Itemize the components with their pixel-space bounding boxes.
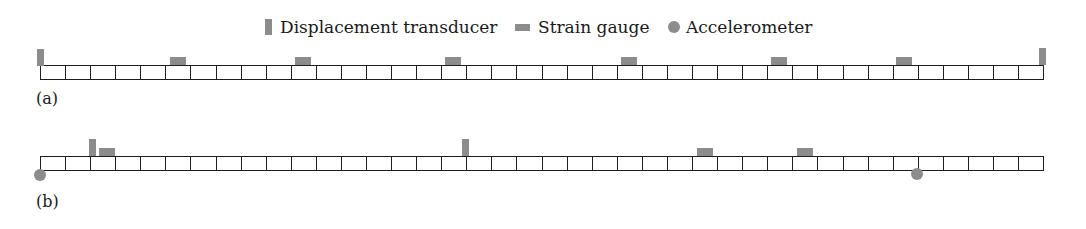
beam-cell <box>517 66 542 79</box>
beam-cell <box>793 66 818 79</box>
beam-cell <box>693 66 718 79</box>
beam-cell <box>242 157 267 170</box>
legend-item-strain-gauge: Strain gauge <box>515 14 649 40</box>
beam-cell <box>643 157 668 170</box>
beam-cell <box>994 157 1019 170</box>
beam-cell <box>367 157 392 170</box>
beam-cell <box>91 157 116 170</box>
displacement-transducer-icon <box>462 139 469 156</box>
beam-cell <box>1019 66 1043 79</box>
beam-cell <box>342 66 367 79</box>
beam-cell <box>492 66 517 79</box>
beam-cell <box>618 157 643 170</box>
beam-cell <box>969 66 994 79</box>
beam-cell <box>166 157 191 170</box>
legend-item-transducer: Displacement transducer <box>265 14 498 40</box>
strain-gauge-icon <box>621 57 637 65</box>
accelerometer-icon <box>34 169 46 181</box>
beam-cell <box>718 66 743 79</box>
beam-cell <box>668 66 693 79</box>
displacement-transducer-icon <box>265 19 272 35</box>
beam-cell <box>1019 157 1043 170</box>
legend-label: Strain gauge <box>538 14 649 40</box>
beam-cell <box>141 157 166 170</box>
beam-cell <box>944 66 969 79</box>
legend-label: Accelerometer <box>686 14 812 40</box>
beam-cell <box>693 157 718 170</box>
beam-cell <box>217 157 242 170</box>
beam-cell <box>743 157 768 170</box>
beam-cell <box>41 157 66 170</box>
strain-gauge-icon <box>697 148 713 156</box>
strain-gauge-icon <box>99 148 115 156</box>
beam-cell <box>467 157 492 170</box>
beam-cell <box>643 66 668 79</box>
beam-cell <box>568 66 593 79</box>
beam-cell <box>91 66 116 79</box>
beam-cell <box>392 157 417 170</box>
strain-gauge-icon <box>295 57 311 65</box>
beam-cell <box>869 66 894 79</box>
beam-cell <box>41 66 66 79</box>
beam-cell <box>994 66 1019 79</box>
beam-cell <box>267 157 292 170</box>
beam-cell <box>768 66 793 79</box>
beam-cell <box>944 157 969 170</box>
beam-cell <box>768 157 793 170</box>
beam-cell <box>844 66 869 79</box>
strain-gauge-icon <box>771 57 787 65</box>
beam-cell <box>217 66 242 79</box>
beam-cell <box>292 157 317 170</box>
beam-cell <box>417 157 442 170</box>
beam-cell <box>793 157 818 170</box>
beam-cell <box>869 157 894 170</box>
beam-cell <box>818 66 843 79</box>
panel-label-b: (b) <box>36 192 59 211</box>
beam-cell <box>517 157 542 170</box>
beam-cell <box>191 157 216 170</box>
legend-label: Displacement transducer <box>280 14 498 40</box>
beam-cell <box>242 66 267 79</box>
beam-cell <box>442 157 467 170</box>
beam-cell <box>718 157 743 170</box>
strain-gauge-icon <box>170 57 186 65</box>
beam-cell <box>317 157 342 170</box>
beam-cell <box>267 66 292 79</box>
strain-gauge-icon <box>797 148 813 156</box>
beam-cell <box>392 66 417 79</box>
beam-cell <box>543 157 568 170</box>
beam-grid <box>40 156 1044 171</box>
beam-cell <box>818 157 843 170</box>
displacement-transducer-icon <box>1039 48 1046 65</box>
beam-cell <box>593 66 618 79</box>
beam-cell <box>492 157 517 170</box>
beam-cell <box>969 157 994 170</box>
beam-cell <box>116 157 141 170</box>
beam-cell <box>668 157 693 170</box>
beam-cell <box>568 157 593 170</box>
beam-cell <box>467 66 492 79</box>
beam-grid <box>40 65 1044 80</box>
beam-cell <box>342 157 367 170</box>
beam-cell <box>116 66 141 79</box>
beam-cell <box>844 157 869 170</box>
beam-cell <box>141 66 166 79</box>
beam-cell <box>919 66 944 79</box>
beam-cell <box>618 66 643 79</box>
beam-cell <box>66 66 91 79</box>
beam-cell <box>894 66 919 79</box>
accelerometer-icon <box>911 168 923 180</box>
panel-label-a: (a) <box>36 89 58 108</box>
legend: Displacement transducer Strain gauge Acc… <box>0 14 1086 40</box>
beam-cell <box>919 157 944 170</box>
strain-gauge-icon <box>515 24 530 31</box>
strain-gauge-icon <box>896 57 912 65</box>
beam-cell <box>442 66 467 79</box>
beam-cell <box>292 66 317 79</box>
beam-cell <box>543 66 568 79</box>
beam-cell <box>317 66 342 79</box>
beam-cell <box>166 66 191 79</box>
strain-gauge-icon <box>445 57 461 65</box>
displacement-transducer-icon <box>89 139 96 156</box>
displacement-transducer-icon <box>37 49 44 66</box>
